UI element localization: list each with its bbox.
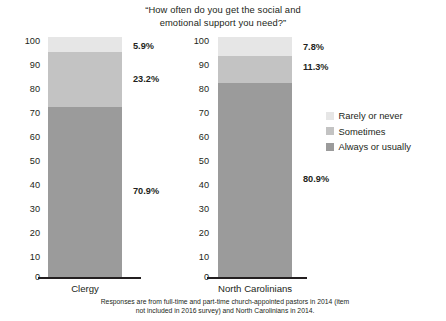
legend-swatch-icon-rarely-or-never (326, 112, 334, 120)
chart-footnote: Responses are from full-time and part-ti… (60, 297, 390, 315)
y-axis-tick-80: 80 (183, 84, 209, 94)
footnote-line-2: not included in 2016 survey) and North C… (60, 306, 390, 315)
y-axis-tick-60: 60 (183, 132, 209, 142)
legend-swatch-icon-sometimes (326, 127, 334, 135)
chart-legend: Rarely or never Sometimes Always or usua… (326, 108, 411, 155)
value-label-always-or-usually: 80.9% (303, 174, 329, 184)
y-axis-tick-90: 90 (14, 60, 40, 70)
bar-segment-rarely-or-never (48, 37, 122, 51)
legend-label-sometimes: Sometimes (339, 126, 386, 137)
y-axis-tick-50: 50 (14, 156, 40, 166)
value-label-rarely-or-never: 5.9% (133, 41, 154, 51)
y-axis-tick-40: 40 (14, 180, 40, 190)
value-label-always-or-usually: 70.9% (133, 186, 159, 196)
bar-segment-sometimes (48, 52, 122, 108)
category-label-clergy: Clergy (48, 283, 122, 294)
y-axis-tick-20: 20 (14, 228, 40, 238)
value-label-sometimes: 23.2% (133, 74, 159, 84)
stacked-bar-north-carolinians (218, 37, 292, 277)
legend-label-always-or-usually: Always or usually (339, 141, 411, 152)
x-axis-baseline (207, 277, 307, 279)
value-label-sometimes: 11.3% (303, 62, 329, 72)
y-axis-tick-0: 0 (183, 272, 209, 282)
y-axis-tick-70: 70 (183, 108, 209, 118)
category-label-north-carolinians: North Carolinians (218, 283, 292, 294)
stacked-bar-chart-figure: “How often do you get the social and emo… (0, 0, 446, 321)
y-axis-tick-90: 90 (183, 60, 209, 70)
legend-item-rarely-or-never: Rarely or never (326, 108, 411, 124)
chart-panel-north-carolinians: 100 90 80 70 60 50 40 30 20 10 0 7.8% 11… (180, 0, 380, 321)
y-axis-tick-60: 60 (14, 132, 40, 142)
value-label-rarely-or-never: 7.8% (303, 42, 324, 52)
y-axis-tick-30: 30 (183, 204, 209, 214)
bar-segment-always-or-usually (48, 107, 122, 277)
bar-segment-rarely-or-never (218, 37, 292, 56)
y-axis-tick-0: 0 (14, 272, 40, 282)
stacked-bar-clergy (48, 37, 122, 277)
legend-label-rarely-or-never: Rarely or never (339, 110, 403, 121)
bar-segment-sometimes (218, 56, 292, 83)
y-axis-tick-20: 20 (183, 228, 209, 238)
chart-panel-clergy: 100 90 80 70 60 50 40 30 20 10 0 5.9% 23… (0, 0, 190, 321)
y-axis-tick-30: 30 (14, 204, 40, 214)
legend-swatch-icon-always-or-usually (326, 143, 334, 151)
y-axis-tick-10: 10 (183, 252, 209, 262)
legend-item-sometimes: Sometimes (326, 124, 411, 140)
footnote-line-1: Responses are from full-time and part-ti… (60, 297, 390, 306)
legend-item-always-or-usually: Always or usually (326, 139, 411, 155)
y-axis-tick-100: 100 (14, 36, 40, 46)
y-axis-tick-40: 40 (183, 180, 209, 190)
x-axis-baseline (38, 277, 141, 279)
bar-segment-always-or-usually (218, 83, 292, 277)
y-axis-tick-50: 50 (183, 156, 209, 166)
y-axis-tick-10: 10 (14, 252, 40, 262)
y-axis-tick-80: 80 (14, 84, 40, 94)
y-axis-tick-70: 70 (14, 108, 40, 118)
y-axis-tick-100: 100 (183, 36, 209, 46)
